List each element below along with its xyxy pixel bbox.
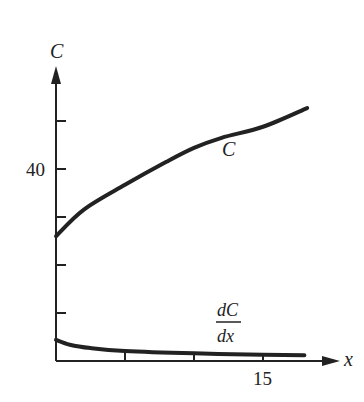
x-axis-arrow-icon bbox=[322, 356, 340, 366]
curve-c-label: C bbox=[222, 138, 236, 160]
curve-dcdx-label-den: dx bbox=[217, 326, 234, 346]
y-tick-label: 40 bbox=[26, 159, 45, 180]
curve-dcdx bbox=[56, 340, 304, 355]
y-axis-arrow-icon bbox=[51, 66, 61, 84]
x-tick-label: 15 bbox=[253, 368, 272, 389]
curve-c bbox=[56, 108, 307, 236]
x-ticks: 15 bbox=[125, 353, 272, 389]
y-axis-label: C bbox=[50, 40, 64, 62]
y-ticks: 40 bbox=[26, 121, 66, 313]
chart: 40 15 C x C dC dx bbox=[0, 0, 364, 402]
curve-dcdx-label-num: dC bbox=[217, 300, 239, 320]
x-axis-label: x bbox=[343, 348, 353, 370]
